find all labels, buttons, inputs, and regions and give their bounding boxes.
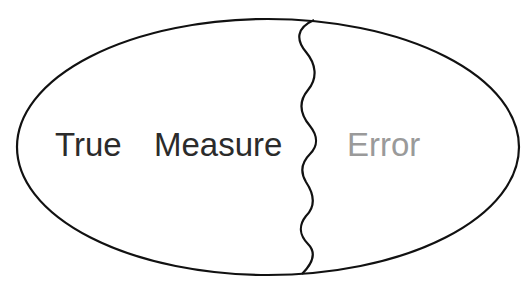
measure-label: Measure: [154, 128, 282, 161]
true-label: True: [55, 128, 122, 161]
wavy-divider: [299, 20, 316, 274]
error-label: Error: [347, 128, 420, 161]
